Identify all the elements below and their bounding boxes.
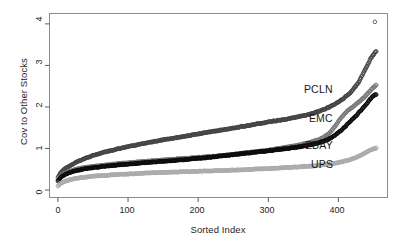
x-tick-label-400: 400 [322,205,352,215]
x-axis-title: Sorted Index [49,224,387,235]
series-label-ebay: EBAY [305,139,333,151]
series-label-ups: UPS [311,158,333,170]
x-tick-label-0: 0 [43,205,73,215]
series-label-emc: EMC [309,112,333,124]
y-tick-label-0: 0 [34,185,44,199]
y-axis-title: Cov to Other Stocks [18,32,29,172]
covariance-scatter-figure: 0 1 2 3 4 0 100 200 300 400 Cov to Other… [0,0,404,248]
x-tick-label-200: 200 [182,205,212,215]
y-tick-label-4: 4 [34,12,44,26]
x-tick-label-100: 100 [112,205,142,215]
y-tick-label-3: 3 [34,55,44,69]
series-label-pcln: PCLN [304,83,333,95]
y-tick-label-1: 1 [34,141,44,155]
y-tick-label-2: 2 [34,98,44,112]
x-tick-label-300: 300 [252,205,282,215]
